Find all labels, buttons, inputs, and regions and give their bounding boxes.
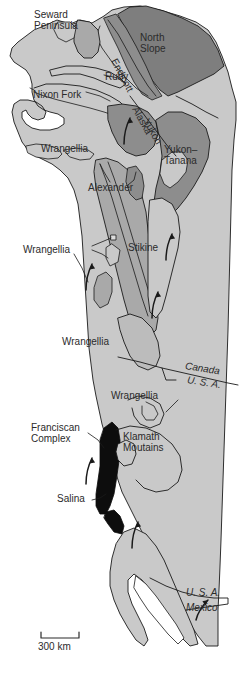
label-nixon-fork: Nixon Fork <box>33 90 81 101</box>
label-wrangellia-alaska: Wrangellia <box>41 144 88 155</box>
scale-bar <box>41 632 79 638</box>
label-alexander: Alexander <box>88 183 133 194</box>
label-north-slope: North Slope <box>140 33 166 54</box>
label-seward-peninsula: Seward Peninsula <box>34 10 78 31</box>
label-wrangellia-bc: Wrangellia <box>23 245 70 256</box>
label-wrangellia-usa: Wrangellia <box>111 391 158 402</box>
terrane-map: Seward Peninsula North Slope Endicott Ru… <box>0 0 240 678</box>
label-franciscan-complex: Franciscan Complex <box>31 423 80 444</box>
label-usa-south: U. S. A. <box>186 588 220 599</box>
label-stikine: Stikine <box>128 243 158 254</box>
label-ruby: Ruby <box>105 72 128 83</box>
label-mexico: Mexico <box>186 603 218 614</box>
label-klamath-mountains: Klamath Moutains <box>123 432 164 453</box>
scale-bar-label: 300 km <box>38 641 71 652</box>
wrangellia-marker-square <box>111 235 116 240</box>
terrane-franciscan-complex <box>96 422 120 514</box>
franciscan-taper <box>104 510 124 534</box>
label-salina: Salina <box>57 494 85 505</box>
label-wrangellia-south: Wrangellia <box>62 337 109 348</box>
map-graphic <box>0 0 240 678</box>
label-yukon-tanana: Yukon– Tanana <box>164 145 197 166</box>
